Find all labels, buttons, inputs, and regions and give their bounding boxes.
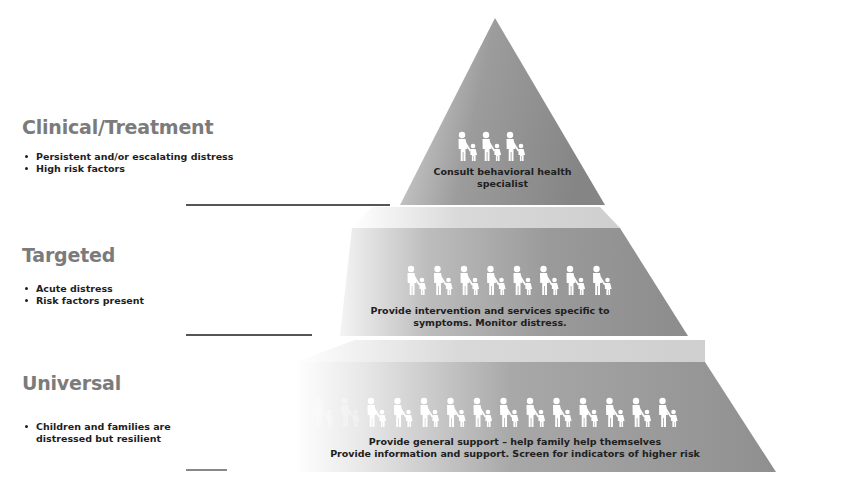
pyramid-diagram — [0, 0, 852, 495]
pyramid-text-clinical: Consult behavioral health specialist — [400, 166, 605, 190]
pyramid-text-universal: Provide general support – help family he… — [300, 436, 730, 460]
pyramid-text-targeted: Provide intervention and services specif… — [340, 305, 640, 329]
